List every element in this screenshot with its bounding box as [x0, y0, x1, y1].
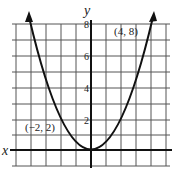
- y-tick-6: 6: [84, 51, 89, 62]
- y-tick-4: 4: [84, 83, 89, 94]
- y-tick-2: 2: [84, 115, 89, 126]
- x-axis-label: x: [1, 143, 9, 158]
- y-axis-label: y: [82, 3, 91, 18]
- arrowhead-right: [149, 11, 157, 22]
- parabola-graph: y x 8 6 4 2 (−2, 2) (4, 8): [0, 0, 178, 176]
- arrowhead-left: [25, 11, 33, 22]
- y-tick-8: 8: [84, 19, 89, 30]
- point-label-neg2-2: (−2, 2): [25, 121, 55, 134]
- point-label-4-8: (4, 8): [114, 25, 138, 38]
